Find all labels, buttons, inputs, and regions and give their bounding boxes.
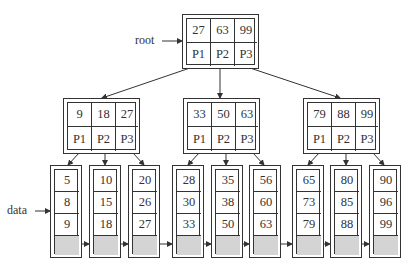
internal-3-pointer-2: P2	[332, 127, 356, 151]
root-pointer-1: P1	[187, 43, 211, 66]
root-pointer-3: P3	[235, 43, 257, 66]
internal-1-key-2: 18	[92, 103, 116, 127]
internal-2-key-3: 63	[236, 103, 258, 127]
leaf-1-value-3: 9	[55, 214, 79, 236]
root-key-2: 63	[211, 19, 235, 43]
internal-2-key-2: 50	[212, 103, 236, 127]
leaf-9-value-2: 96	[374, 192, 398, 214]
leaf-node-1-inner: 5 8 9	[54, 169, 78, 254]
internal-node-1: 9 18 27 P1 P2 P3	[63, 98, 140, 154]
internal-node-3: 79 88 99 P1 P2 P3	[303, 98, 380, 154]
leaf-5-value-1: 35	[216, 170, 240, 192]
leaf-6-next-pointer	[254, 236, 278, 255]
leaf-2-value-3: 18	[94, 214, 118, 236]
leaf-node-8: 80 85 88	[330, 165, 362, 258]
leaf-4-value-1: 28	[177, 170, 201, 192]
leaf-5-value-2: 38	[216, 192, 240, 214]
leaf-node-9: 90 96 99	[369, 165, 401, 258]
leaf-1-next-pointer	[55, 236, 79, 255]
leaf-6-value-3: 63	[254, 214, 278, 236]
leaf-4-value-2: 30	[177, 192, 201, 214]
leaf-1-value-2: 8	[55, 192, 79, 214]
edge-root-p1	[102, 68, 190, 98]
leaf-node-7-inner: 65 73 79	[296, 169, 320, 254]
root-key-3: 99	[235, 19, 257, 43]
leaf-2-next-pointer	[94, 236, 118, 255]
data-label: data	[7, 203, 27, 218]
leaf-8-value-3: 88	[335, 214, 359, 236]
leaf-node-5: 35 38 50	[211, 165, 243, 258]
root-pointer-2: P2	[211, 43, 235, 66]
leaf-7-value-2: 73	[297, 192, 321, 214]
leaf-3-value-2: 26	[133, 192, 157, 214]
leaf-node-5-inner: 35 38 50	[215, 169, 239, 254]
leaf-8-value-1: 80	[335, 170, 359, 192]
internal-node-3-inner: 79 88 99 P1 P2 P3	[307, 102, 376, 150]
internal-1-key-3: 27	[116, 103, 138, 127]
leaf-4-value-3: 33	[177, 214, 201, 236]
edge-i3-p3	[373, 153, 384, 165]
root-node: 27 63 99 P1 P2 P3	[182, 14, 259, 69]
leaf-node-7: 65 73 79	[292, 165, 324, 258]
edge-i2-p1	[188, 153, 199, 165]
leaf-3-next-pointer	[133, 236, 157, 255]
leaf-4-next-pointer	[177, 236, 201, 255]
edge-i1-p3	[133, 153, 144, 165]
leaf-9-next-pointer	[374, 236, 398, 255]
leaf-5-next-pointer	[216, 236, 240, 255]
internal-node-1-inner: 9 18 27 P1 P2 P3	[67, 102, 136, 150]
internal-1-pointer-1: P1	[68, 127, 92, 151]
edge-i3-p1	[308, 153, 319, 165]
internal-3-key-3: 99	[356, 103, 378, 127]
leaf-node-8-inner: 80 85 88	[334, 169, 358, 254]
internal-1-key-1: 9	[68, 103, 92, 127]
leaf-6-value-1: 56	[254, 170, 278, 192]
internal-2-key-1: 33	[188, 103, 212, 127]
leaf-node-2-inner: 10 15 18	[93, 169, 117, 254]
leaf-9-value-1: 90	[374, 170, 398, 192]
internal-2-pointer-3: P3	[236, 127, 258, 151]
leaf-8-value-2: 85	[335, 192, 359, 214]
internal-3-key-1: 79	[308, 103, 332, 127]
leaf-2-value-2: 15	[94, 192, 118, 214]
internal-3-key-2: 88	[332, 103, 356, 127]
edge-root-p3	[250, 68, 340, 98]
leaf-7-next-pointer	[297, 236, 321, 255]
leaf-2-value-1: 10	[94, 170, 118, 192]
leaf-1-value-1: 5	[55, 170, 79, 192]
leaf-3-value-3: 27	[133, 214, 157, 236]
leaf-node-3: 20 26 27	[128, 165, 160, 258]
internal-node-2-inner: 33 50 63 P1 P2 P3	[187, 102, 256, 150]
leaf-6-value-2: 60	[254, 192, 278, 214]
leaf-3-value-1: 20	[133, 170, 157, 192]
leaf-node-2: 10 15 18	[89, 165, 121, 258]
root-label: root	[135, 33, 154, 48]
internal-3-pointer-1: P1	[308, 127, 332, 151]
internal-1-pointer-3: P3	[116, 127, 138, 151]
internal-3-pointer-3: P3	[356, 127, 378, 151]
leaf-5-value-3: 50	[216, 214, 240, 236]
leaf-node-1: 5 8 9	[50, 165, 82, 258]
leaf-node-6: 56 60 63	[249, 165, 281, 258]
leaf-node-4: 28 30 33	[172, 165, 204, 258]
leaf-node-9-inner: 90 96 99	[373, 169, 397, 254]
leaf-7-value-3: 79	[297, 214, 321, 236]
leaf-8-next-pointer	[335, 236, 359, 255]
internal-2-pointer-1: P1	[188, 127, 212, 151]
internal-1-pointer-2: P2	[92, 127, 116, 151]
internal-node-2: 33 50 63 P1 P2 P3	[183, 98, 260, 154]
leaf-7-value-1: 65	[297, 170, 321, 192]
leaf-node-6-inner: 56 60 63	[253, 169, 277, 254]
edge-i2-p3	[253, 153, 264, 165]
root-key-1: 27	[187, 19, 211, 43]
leaf-9-value-3: 99	[374, 214, 398, 236]
leaf-node-3-inner: 20 26 27	[132, 169, 156, 254]
internal-2-pointer-2: P2	[212, 127, 236, 151]
leaf-node-4-inner: 28 30 33	[176, 169, 200, 254]
root-node-inner: 27 63 99 P1 P2 P3	[186, 18, 255, 65]
edge-i1-p1	[68, 153, 79, 165]
